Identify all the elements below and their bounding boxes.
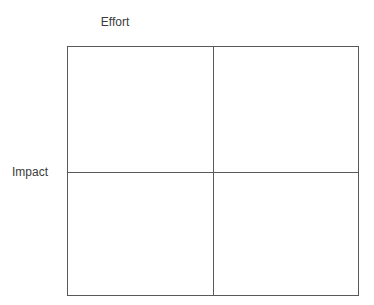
- quadrant-bottom-left[interactable]: [68, 173, 213, 295]
- impact-axis-label: Impact: [12, 165, 48, 179]
- quadrant-top-right[interactable]: [214, 47, 358, 172]
- matrix-frame: [67, 46, 359, 296]
- quadrant-bottom-right[interactable]: [214, 173, 358, 295]
- quadrant-top-left[interactable]: [68, 47, 213, 172]
- vertical-divider-line: [213, 47, 214, 295]
- effort-impact-matrix: Effort Impact: [0, 0, 374, 305]
- effort-axis-label: Effort: [0, 15, 374, 29]
- horizontal-divider-line: [68, 172, 358, 173]
